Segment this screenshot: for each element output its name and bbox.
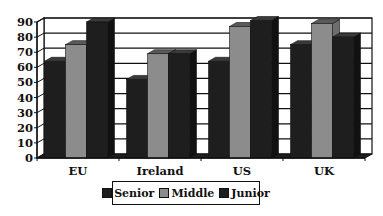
y-tick-label: 40	[17, 91, 33, 105]
bar-eu-junior	[87, 18, 115, 158]
y-tick-label: 0	[25, 151, 33, 165]
x-axis-labels: EUIrelandUSUK	[69, 164, 335, 178]
legend-item-middle: Middle	[159, 187, 214, 200]
y-tick-label: 20	[17, 121, 33, 135]
y-tick-label: 90	[17, 15, 33, 29]
legend-swatch-middle	[159, 188, 169, 198]
bar-uk-junior	[333, 33, 361, 158]
y-tick-label: 50	[17, 75, 33, 89]
y-tick-label: 30	[17, 106, 33, 120]
y-axis-ticks: 0102030405060708090	[17, 15, 37, 165]
bar-us-junior	[251, 16, 279, 158]
bar-ireland-junior	[169, 50, 197, 158]
y-tick-label: 10	[17, 136, 33, 150]
legend-swatch-senior	[102, 188, 112, 198]
x-tick-label: UK	[314, 164, 335, 178]
legend-swatch-junior	[219, 188, 229, 198]
legend-item-senior: Senior	[102, 187, 154, 200]
x-tick-label: Ireland	[137, 164, 184, 178]
legend-label-middle: Middle	[171, 187, 214, 200]
y-tick-label: 70	[17, 45, 33, 59]
legend-label-senior: Senior	[114, 187, 154, 200]
y-tick-label: 60	[17, 60, 33, 74]
x-tick-label: US	[233, 164, 251, 178]
x-tick-label: EU	[69, 164, 88, 178]
y-tick-label: 80	[17, 30, 33, 44]
legend-item-junior: Junior	[219, 187, 270, 200]
legend: Senior Middle Junior	[112, 181, 260, 205]
legend-label-junior: Junior	[231, 187, 270, 200]
